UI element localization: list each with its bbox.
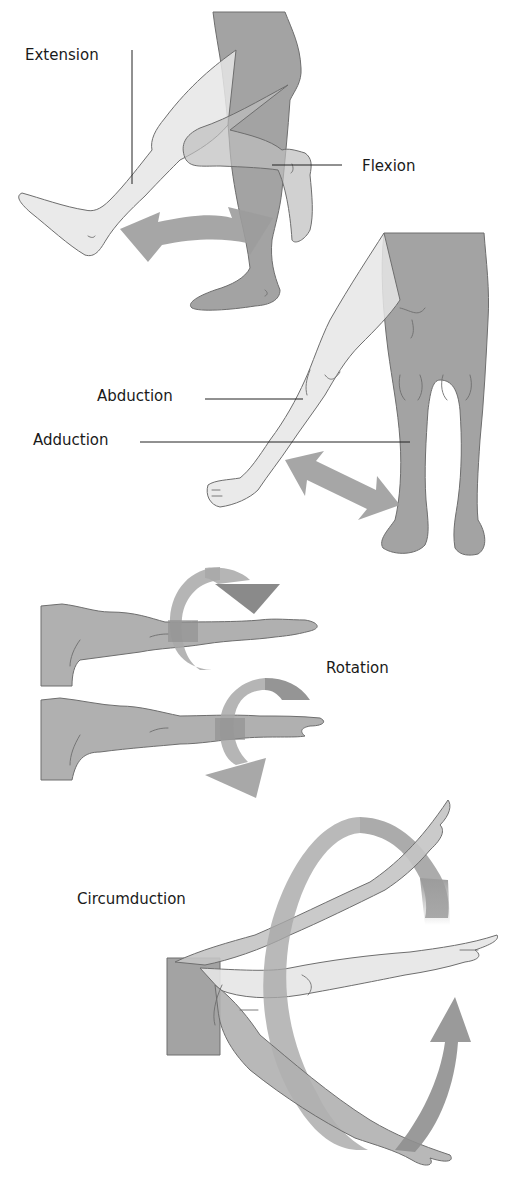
abduction-adduction-arrow-icon (285, 451, 400, 520)
rotation-arrow-lower-icon (205, 678, 310, 798)
joint-movements-diagram: Extension Flexion Abduction Adduction (0, 0, 524, 1191)
arm-raised (175, 800, 450, 965)
adduction-label: Adduction (33, 431, 109, 449)
circumduction-arrow-icon (395, 997, 471, 1152)
rotation-label: Rotation (326, 659, 389, 677)
circumduction-label: Circumduction (77, 890, 186, 908)
flexion-extension-arrow-icon (120, 207, 273, 262)
abduction-label: Abduction (97, 387, 173, 405)
flexion-extension-panel: Extension Flexion (19, 12, 416, 310)
circumduction-panel: Circumduction (77, 800, 498, 1165)
rotation-panel: Rotation (41, 567, 389, 798)
rotation-arrow-upper-icon (168, 567, 280, 670)
flexion-label: Flexion (362, 157, 416, 175)
extension-label: Extension (25, 46, 99, 64)
rotation-arm-lower (41, 698, 324, 780)
standing-legs (382, 233, 489, 555)
